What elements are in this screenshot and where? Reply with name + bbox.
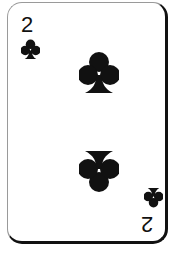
rank-top-left: 2 [21, 14, 33, 36]
rank-bottom-right: 2 [141, 213, 153, 235]
club-icon [79, 51, 119, 95]
club-icon [21, 39, 40, 60]
club-icon [79, 149, 119, 193]
playing-card: 2 2 [7, 2, 168, 244]
club-icon [144, 187, 163, 208]
